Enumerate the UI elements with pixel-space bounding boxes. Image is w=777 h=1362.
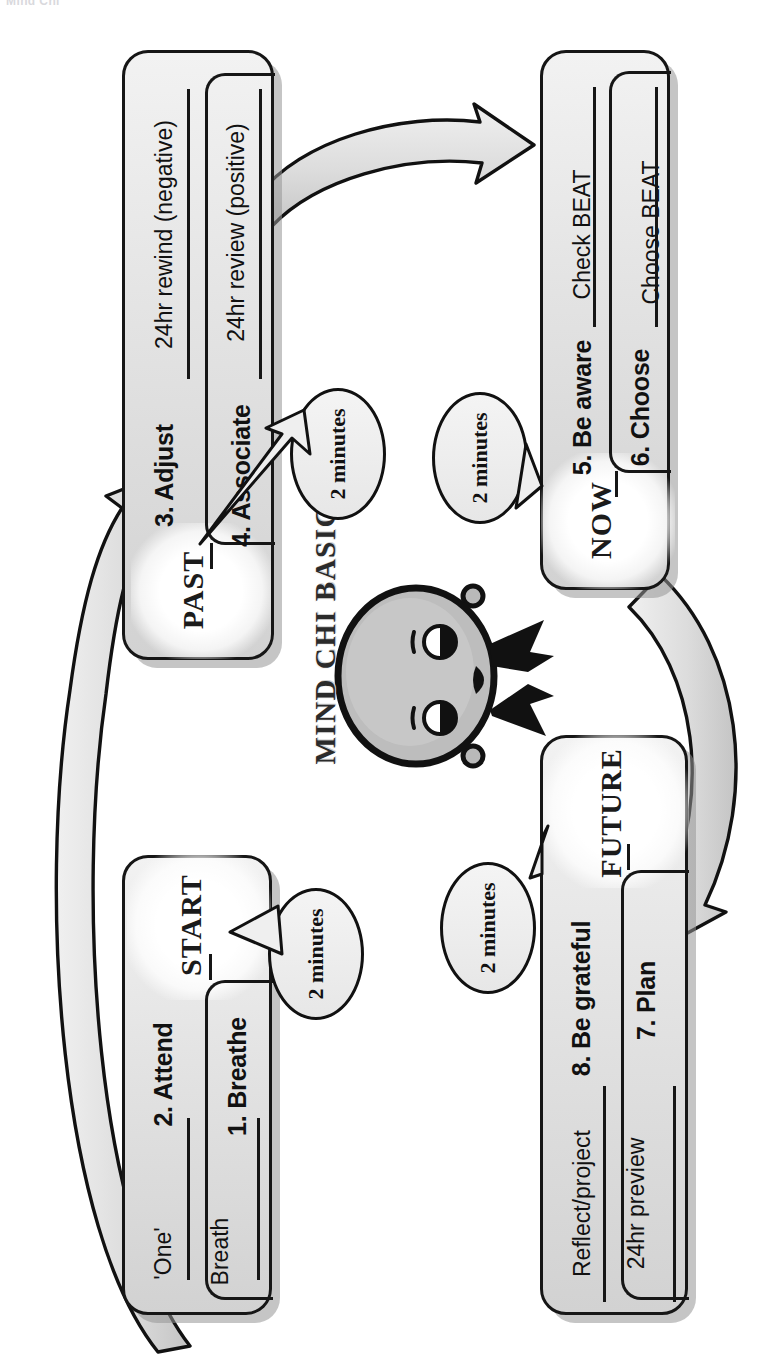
- row-detail-future-1: Reflect/project: [569, 1103, 596, 1305]
- row-detail-now-2: Choose BEAT: [638, 123, 665, 343]
- era-tick-now: [615, 471, 618, 497]
- row-detail-future-2: 24hr preview: [623, 1109, 650, 1299]
- row-label-start-2: 1. Breathe: [223, 987, 252, 1167]
- row-detail-past-1: 24hr rewind (negative): [151, 107, 178, 363]
- bubble-now-text: 2 minutes: [467, 412, 493, 503]
- bubble-start-tail: [216, 898, 296, 978]
- bubble-past-text: 2 minutes: [325, 408, 351, 499]
- row-rule-now-1: [593, 87, 596, 327]
- row-rule-now-2: [655, 87, 658, 327]
- row-rule-future-1: [603, 1086, 606, 1302]
- row-detail-past-2: 24hr review (positive): [223, 105, 250, 361]
- bubble-now: 2 minutes: [432, 392, 528, 524]
- mind-chi-basic-diagram: Mind Chi: [0, 0, 777, 1362]
- bubble-past-tail: [196, 398, 316, 568]
- row-rule-start-2: [257, 1118, 260, 1280]
- row-label-past-1: 3. Adjust: [150, 391, 179, 561]
- era-tick-future: [627, 844, 630, 870]
- bubble-start-text: 2 minutes: [303, 908, 329, 999]
- era-label-start: START: [174, 845, 208, 1005]
- row-detail-start-1: 'One': [150, 1198, 177, 1310]
- row-rule-start-1: [187, 1118, 190, 1280]
- row-label-future-2: 7. Plan: [632, 916, 661, 1086]
- arrow-past-to-now: [258, 104, 534, 226]
- row-detail-start-2: Breath: [207, 1189, 234, 1315]
- row-rule-future-2: [673, 1086, 676, 1302]
- card-future[interactable]: FUTURE 8. Be grateful Reflect/project 7.…: [540, 735, 688, 1315]
- row-detail-now-1: Check BEAT: [569, 132, 596, 338]
- row-rule-past-1: [187, 89, 190, 379]
- era-label-future: FUTURE: [594, 733, 628, 893]
- row-rule-past-2: [259, 89, 262, 379]
- era-tick-start: [209, 954, 212, 980]
- card-past[interactable]: PAST 3. Adjust 24hr rewind (negative) 4.…: [122, 50, 274, 660]
- bubble-now-tail: [520, 452, 590, 532]
- mind-chi-logo: [330, 560, 560, 800]
- mind-chi-head-icon: [330, 560, 560, 800]
- bubble-future-text: 2 minutes: [475, 882, 501, 973]
- row-label-now-2: 6. Choose: [626, 318, 655, 498]
- row-label-start-1: 2. Attend: [149, 989, 178, 1161]
- bubble-future-tail: [514, 830, 594, 940]
